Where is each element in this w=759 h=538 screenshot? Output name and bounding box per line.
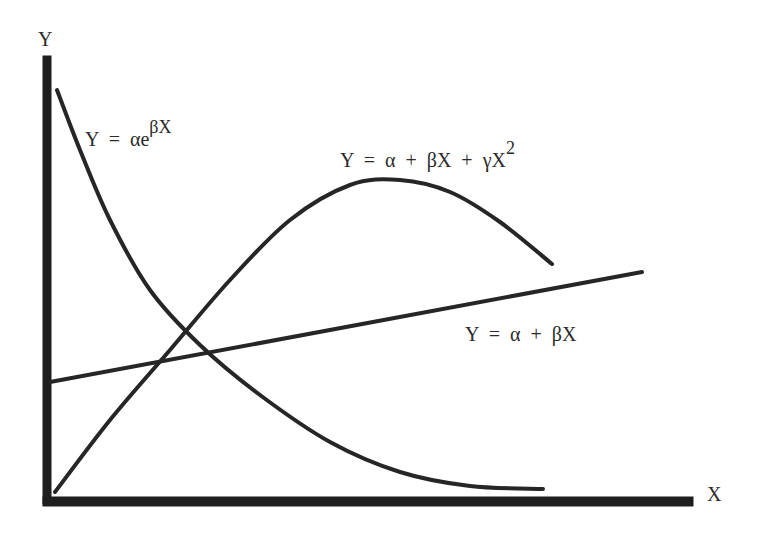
y-axis xyxy=(43,56,51,504)
x-axis xyxy=(43,497,693,506)
linear-equation-label: Y = α + βX xyxy=(465,323,577,346)
x-axis-label: X xyxy=(707,483,722,505)
y-axis-label: Y xyxy=(38,28,52,50)
chart-canvas: Y X Y = αeβX Y = α + βX + γX2 Y = α + βX xyxy=(0,0,759,538)
exponential-equation-label: Y = αeβX xyxy=(85,117,172,150)
quadratic-equation-label: Y = α + βX + γX2 xyxy=(340,138,515,172)
